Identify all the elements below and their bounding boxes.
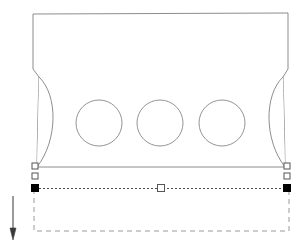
- handle-right-upper[interactable]: [284, 163, 290, 169]
- handle-right-mid[interactable]: [284, 173, 290, 179]
- handle-right-anchor[interactable]: [284, 185, 291, 192]
- selection-dashed-path-group[interactable]: [34, 189, 289, 231]
- selection-dashed-rect[interactable]: [34, 189, 289, 231]
- offset-direction-arrow[interactable]: [10, 196, 16, 240]
- part-outline-group[interactable]: [33, 13, 288, 167]
- cad-drawing-canvas[interactable]: Engine block profile Cylinder bores Offs…: [0, 0, 308, 251]
- handle-left-mid[interactable]: [32, 173, 38, 179]
- handle-left-anchor[interactable]: [32, 185, 39, 192]
- engine-block-profile-path[interactable]: [33, 13, 288, 167]
- handle-center-midpoint[interactable]: [158, 185, 165, 192]
- cad-vector-layer[interactable]: [0, 0, 308, 251]
- arrow-head-icon: [10, 228, 16, 240]
- handle-left-upper[interactable]: [32, 163, 38, 169]
